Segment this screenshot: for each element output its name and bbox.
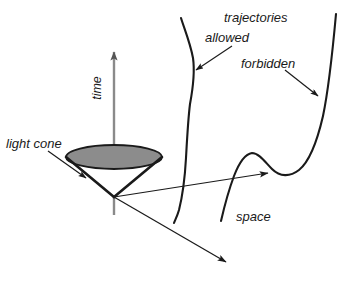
space-axis-label: space (236, 209, 271, 224)
trajectories-label: trajectories (224, 10, 288, 25)
light-cone-label: light cone (6, 136, 62, 151)
forbidden-label: forbidden (241, 56, 295, 71)
time-axis-label: time (90, 76, 104, 100)
allowed-label: allowed (205, 30, 250, 45)
cone-top-disc (66, 145, 162, 169)
lightcone-diagram: trajectories allowed forbidden light con… (0, 0, 344, 283)
diagram-canvas: trajectories allowed forbidden light con… (0, 0, 344, 283)
